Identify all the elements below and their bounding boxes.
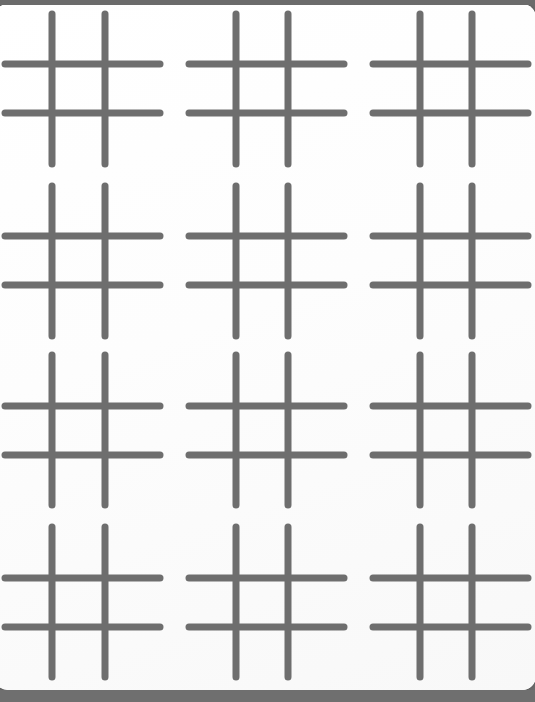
- hash-r3c1[interactable]: [5, 355, 160, 505]
- grid-svg: [0, 0, 535, 702]
- hash-r2c2[interactable]: [189, 186, 344, 336]
- hash-r4c3[interactable]: [373, 527, 528, 677]
- bottom-background-strip: [0, 690, 535, 702]
- hash-r4c1[interactable]: [5, 527, 160, 677]
- screenshot-canvas: [0, 0, 535, 702]
- tic-tac-toe-grid-layer: [0, 0, 535, 702]
- hash-r2c3[interactable]: [373, 186, 528, 336]
- hash-r1c2[interactable]: [189, 14, 344, 164]
- hash-r1c1[interactable]: [5, 14, 160, 164]
- top-background-strip: [0, 0, 535, 5]
- hash-r3c3[interactable]: [373, 355, 528, 505]
- hash-r2c1[interactable]: [5, 186, 160, 336]
- hash-r4c2[interactable]: [189, 527, 344, 677]
- hash-r3c2[interactable]: [189, 355, 344, 505]
- hash-r1c3[interactable]: [373, 14, 528, 164]
